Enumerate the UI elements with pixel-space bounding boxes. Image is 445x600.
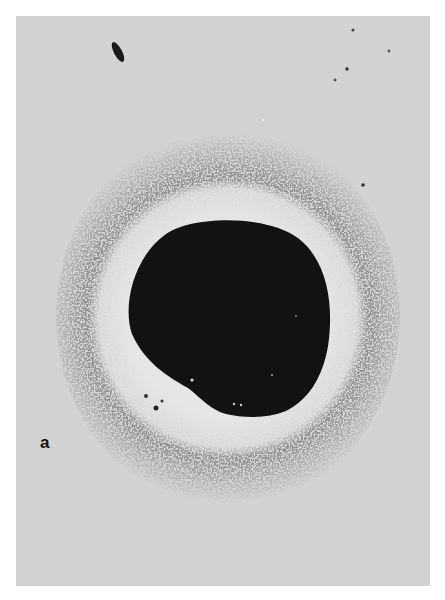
caption-cutoff [16,590,430,600]
figure-photo: a [16,16,430,586]
micrograph-image [16,16,430,586]
panel-label: a [40,434,49,451]
